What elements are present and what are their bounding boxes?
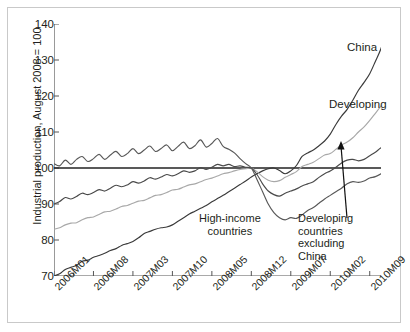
- developing-label: Developing: [329, 98, 387, 110]
- series-line-high-income-countries: [54, 138, 381, 219]
- y-tick-90: 90: [24, 198, 54, 210]
- y-tick-70: 70: [24, 270, 54, 282]
- developing-excl-china-label: Developing countries excluding China: [298, 212, 353, 262]
- y-tick-120: 120: [24, 90, 54, 102]
- series-line-developing-countries-excluding-china: [54, 145, 381, 204]
- x-axis-tick-labels: 2006M012006M082007M032007M102008M052008M…: [54, 278, 394, 332]
- y-tick-130: 130: [24, 54, 54, 66]
- annotation-arrow-head: [337, 141, 344, 149]
- y-tick-110: 110: [24, 126, 54, 138]
- y-tick-100: 100: [24, 162, 54, 174]
- y-tick-80: 80: [24, 234, 54, 246]
- figure-panel: Industrial production, August 2008 = 100…: [7, 7, 401, 323]
- y-tick-140: 140: [24, 18, 54, 30]
- high-income-label: High-income countries: [199, 212, 261, 237]
- y-axis-tick-labels: 708090100110120130140: [16, 24, 54, 276]
- series-line-developing: [54, 98, 381, 229]
- annotation-arrow-line: [341, 146, 347, 218]
- china-label: China: [347, 41, 377, 53]
